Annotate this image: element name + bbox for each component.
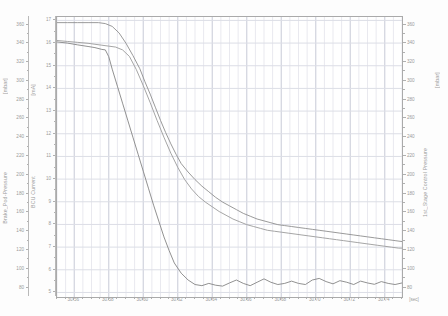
axis-minor-tick bbox=[27, 89, 29, 90]
axis-minor-tick bbox=[27, 33, 29, 34]
axis-minor-tick bbox=[27, 240, 29, 241]
axis-tick-mark bbox=[26, 155, 29, 156]
axis-tick-label: 17 bbox=[41, 17, 51, 22]
axis-tick-label: 80 bbox=[12, 284, 24, 289]
axis-tick-label: 100 bbox=[407, 265, 415, 270]
axis-tick-label: 140 bbox=[12, 228, 24, 233]
axis-minor-tick bbox=[27, 221, 29, 222]
axis-tick-mark bbox=[53, 155, 56, 156]
axis-tick-label: 340 bbox=[407, 40, 415, 45]
axis-tick-label: 260 bbox=[12, 115, 24, 120]
left-outer-axis-unit: [mbar] bbox=[2, 78, 8, 94]
axis-minor-tick bbox=[27, 146, 29, 147]
axis-tick-mark bbox=[53, 223, 56, 224]
axis-tick-label: 160 bbox=[12, 209, 24, 214]
left-inner-axis-unit: [mA] bbox=[30, 84, 36, 95]
axis-minor-tick bbox=[403, 127, 405, 128]
axis-minor-tick bbox=[27, 183, 29, 184]
axis-tick-label: 320 bbox=[12, 59, 24, 64]
axis-minor-tick bbox=[54, 167, 56, 168]
axis-tick-mark bbox=[53, 133, 56, 134]
axis-tick-mark bbox=[53, 246, 56, 247]
axis-line bbox=[28, 16, 29, 296]
axis-minor-tick bbox=[54, 99, 56, 100]
axis-tick-mark bbox=[26, 136, 29, 137]
axis-minor-tick bbox=[54, 31, 56, 32]
axis-minor-tick bbox=[403, 70, 405, 71]
axis-tick-mark bbox=[403, 42, 406, 43]
axis-tick-mark bbox=[403, 287, 406, 288]
axis-tick-mark bbox=[403, 117, 406, 118]
axis-minor-tick bbox=[54, 257, 56, 258]
axis-tick-mark bbox=[403, 80, 406, 81]
axis-minor-tick bbox=[403, 89, 405, 90]
axis-tick-label: 8 bbox=[41, 221, 51, 226]
axis-minor-tick bbox=[54, 280, 56, 281]
left-outer-axis-label: Brake_Pod-Pressure bbox=[2, 172, 8, 224]
axis-tick-label: 9 bbox=[41, 198, 51, 203]
axis-tick-mark bbox=[403, 230, 406, 231]
axis-tick-label: 180 bbox=[407, 190, 415, 195]
axis-minor-tick bbox=[403, 258, 405, 259]
axis-tick-mark bbox=[26, 230, 29, 231]
axis-tick-mark bbox=[403, 193, 406, 194]
axis-tick-mark bbox=[53, 110, 56, 111]
axis-minor-tick bbox=[403, 108, 405, 109]
axis-tick-mark bbox=[403, 268, 406, 269]
chart-root: [mbar] Brake_Pod-Pressure [mA] BCU Curre… bbox=[0, 0, 448, 316]
axis-tick-mark bbox=[26, 24, 29, 25]
axis-tick-label: 220 bbox=[12, 153, 24, 158]
axis-tick-mark bbox=[53, 178, 56, 179]
axis-tick-mark bbox=[26, 249, 29, 250]
axis-tick-mark bbox=[53, 291, 56, 292]
axis-tick-mark bbox=[403, 136, 406, 137]
right-axis-unit: [mbar] bbox=[434, 72, 440, 88]
axis-tick-label: 15 bbox=[41, 62, 51, 67]
axis-tick-mark bbox=[53, 87, 56, 88]
axis-tick-label: 300 bbox=[407, 77, 415, 82]
axis-minor-tick bbox=[27, 127, 29, 128]
axis-tick-label: 260 bbox=[407, 115, 415, 120]
axis-minor-tick bbox=[27, 258, 29, 259]
axis-tick-label: 16 bbox=[41, 40, 51, 45]
axis-tick-label: 13 bbox=[41, 108, 51, 113]
axis-tick-mark bbox=[26, 268, 29, 269]
axis-minor-tick bbox=[27, 277, 29, 278]
axis-tick-label: 300 bbox=[12, 77, 24, 82]
axis-tick-mark bbox=[403, 24, 406, 25]
axis-tick-label: 360 bbox=[407, 21, 415, 26]
axis-minor-tick bbox=[54, 212, 56, 213]
axis-tick-mark bbox=[53, 65, 56, 66]
axis-tick-label: 12 bbox=[41, 130, 51, 135]
axis-tick-mark bbox=[403, 155, 406, 156]
axis-tick-label: 180 bbox=[12, 190, 24, 195]
right-axis-label: 1st_Stage Control Pressure bbox=[422, 148, 428, 217]
axis-minor-tick bbox=[403, 202, 405, 203]
plot-area[interactable] bbox=[56, 16, 403, 298]
axis-minor-tick bbox=[54, 53, 56, 54]
axis-tick-label: 80 bbox=[407, 284, 412, 289]
axis-tick-mark bbox=[26, 80, 29, 81]
axis-tick-mark bbox=[26, 61, 29, 62]
axis-minor-tick bbox=[27, 70, 29, 71]
axis-tick-label: 6 bbox=[41, 266, 51, 271]
axis-tick-label: 100 bbox=[12, 265, 24, 270]
axis-tick-mark bbox=[53, 42, 56, 43]
axis-tick-mark bbox=[403, 211, 406, 212]
axis-tick-label: 280 bbox=[407, 96, 415, 101]
axis-minor-tick bbox=[403, 240, 405, 241]
axis-tick-mark bbox=[26, 99, 29, 100]
axis-minor-tick bbox=[403, 183, 405, 184]
axis-tick-mark bbox=[403, 249, 406, 250]
axis-tick-label: 360 bbox=[12, 21, 24, 26]
axis-tick-mark bbox=[26, 211, 29, 212]
axis-minor-tick bbox=[27, 164, 29, 165]
axis-tick-mark bbox=[26, 174, 29, 175]
axis-tick-mark bbox=[403, 99, 406, 100]
axis-tick-label: 280 bbox=[12, 96, 24, 101]
axis-minor-tick bbox=[403, 146, 405, 147]
axis-minor-tick bbox=[403, 277, 405, 278]
axis-tick-label: 320 bbox=[407, 59, 415, 64]
axis-tick-mark bbox=[53, 201, 56, 202]
axis-minor-tick bbox=[27, 52, 29, 53]
